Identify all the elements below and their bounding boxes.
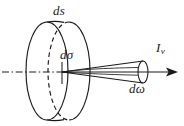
label-specific-intensity: Iν xyxy=(156,41,165,56)
radiometry-figure: ds dσ dω Iν xyxy=(0,0,184,126)
label-cross-section: dσ xyxy=(60,48,74,61)
intensity-subscript: ν xyxy=(161,46,165,56)
label-solid-angle: dω xyxy=(129,82,145,95)
cone-inner-guide-upper xyxy=(62,68,138,73)
label-surface-element: ds xyxy=(53,4,65,17)
figure-canvas xyxy=(0,0,184,126)
disc-slab xyxy=(26,21,90,120)
